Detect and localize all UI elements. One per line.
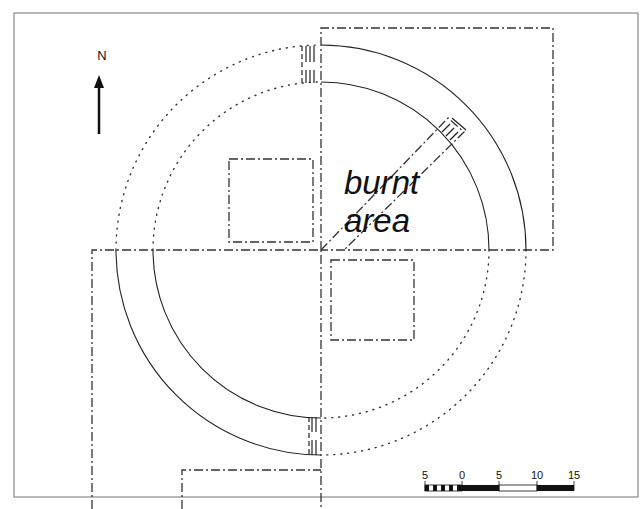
north-arrow-icon — [94, 75, 104, 134]
outer-circle-dotted-nw — [116, 45, 321, 250]
inner-circle-solid-sw — [153, 250, 321, 418]
outer-circle-dotted-se — [321, 250, 526, 455]
site-plan-drawing — [0, 0, 642, 509]
north-label: N — [92, 48, 112, 63]
burnt-area-label-line2: area — [344, 202, 419, 240]
burnt-area-label-line1: burnt — [344, 164, 419, 202]
outer-circle-solid-sw — [116, 250, 321, 455]
scale-tick-label: 0 — [459, 469, 465, 481]
inner-circle-dotted-se — [321, 250, 489, 418]
square-nw-outline — [229, 159, 313, 242]
burnt-area-label: burnt area — [344, 164, 419, 240]
north-entrance-posts — [302, 46, 314, 83]
square-se-outline — [331, 260, 414, 340]
scale-tick-label: 10 — [531, 469, 543, 481]
scale-tick-label: 5 — [496, 469, 502, 481]
scale-tick-label: 15 — [568, 469, 580, 481]
scale-tick-label: 5 — [422, 469, 428, 481]
scale-bar — [425, 481, 574, 491]
trench-south-outline — [182, 470, 321, 509]
south-entrance-posts — [309, 417, 316, 455]
figure-frame — [14, 13, 638, 497]
inner-circle-dotted-nw — [153, 82, 321, 250]
